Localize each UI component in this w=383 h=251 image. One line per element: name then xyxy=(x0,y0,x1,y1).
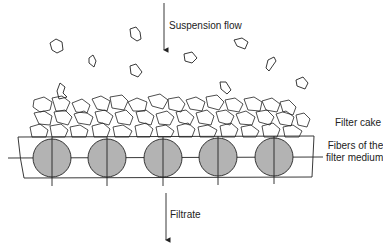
suspension-flow-label: Suspension flow xyxy=(169,20,242,32)
fibers xyxy=(33,136,293,186)
fibers-label: Fibers of the filter medium xyxy=(326,140,383,164)
fibers-label-line1: Fibers of the xyxy=(326,140,383,152)
filtrate-label: Filtrate xyxy=(170,209,201,221)
suspended-particles xyxy=(50,27,308,99)
filter-cake xyxy=(30,85,310,137)
fibers-label-line2: filter medium xyxy=(326,152,383,164)
filter-cake-label: Filter cake xyxy=(335,117,381,129)
